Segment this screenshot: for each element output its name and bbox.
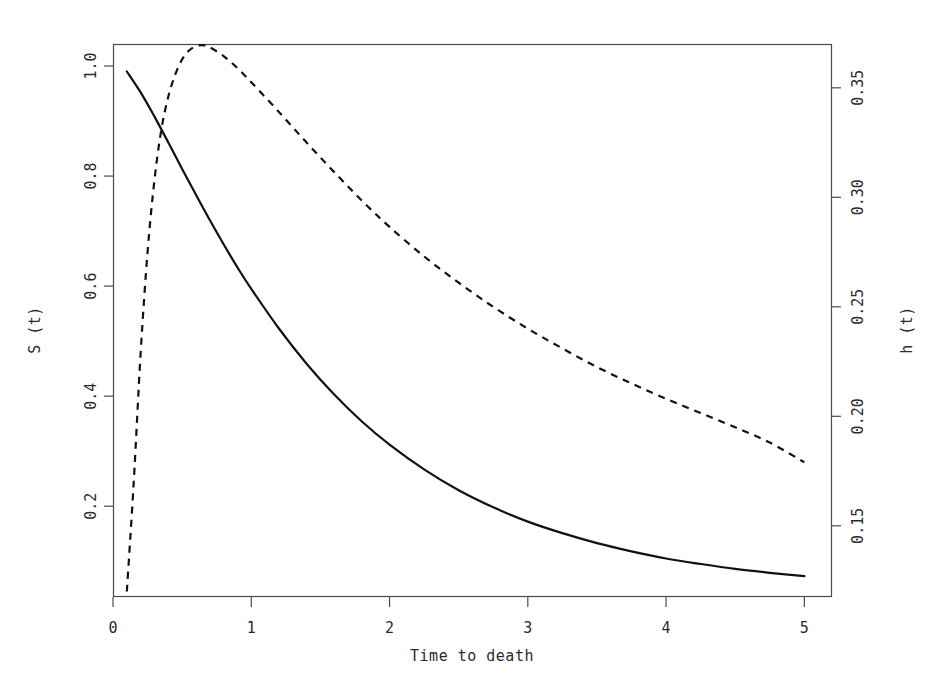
y-axis-right-tick-label: 0.30: [849, 179, 867, 215]
figure-canvas: 1.00.80.60.40.2 0.350.300.250.200.15 012…: [0, 0, 951, 700]
x-axis-tick-label: 5: [800, 619, 809, 637]
y-axis-right-tick-label: 0.20: [849, 398, 867, 434]
x-axis-tick-label: 3: [523, 619, 532, 637]
y-axis-left-tick-label: 0.6: [82, 273, 100, 300]
y-axis-left-tick-label: 0.4: [82, 383, 100, 410]
y-axis-right-tick-label: 0.15: [849, 508, 867, 544]
y-axis-left-title: S (t): [26, 306, 44, 354]
y-axis-left-tick-label: 0.8: [82, 163, 100, 190]
x-axis-tick-label: 1: [247, 619, 256, 637]
x-axis-tick-label: 2: [385, 619, 394, 637]
y-axis-left-tick-label: 0.2: [82, 493, 100, 520]
chart-background: [0, 0, 951, 700]
chart-svg: 1.00.80.60.40.2 0.350.300.250.200.15 012…: [0, 0, 951, 700]
y-axis-left-tick-label: 1.0: [82, 52, 100, 79]
x-axis-tick-label: 4: [662, 619, 671, 637]
y-axis-right-title: h (t): [898, 306, 916, 354]
x-axis-tick-label: 0: [108, 619, 117, 637]
y-axis-right-tick-label: 0.35: [849, 70, 867, 106]
y-axis-right-tick-label: 0.25: [849, 289, 867, 325]
x-axis-title: Time to death: [410, 647, 534, 665]
